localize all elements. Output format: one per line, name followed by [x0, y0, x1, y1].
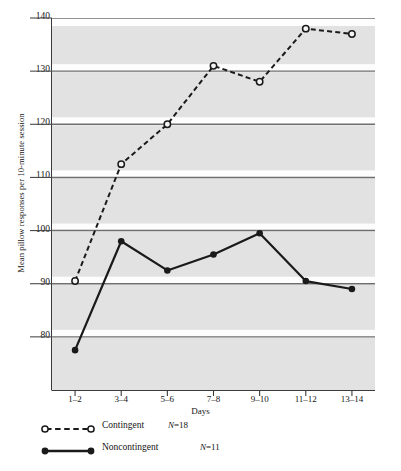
- x-tick-label: 9–10: [251, 394, 269, 404]
- x-tick-label: 7–8: [207, 394, 221, 404]
- x-tick-label: 1–2: [68, 394, 82, 404]
- x-tick-label: 13–14: [341, 394, 364, 404]
- legend-item-noncontingent: Noncontingent N=11: [40, 440, 370, 462]
- legend-label: Noncontingent: [102, 442, 158, 452]
- x-tick-label: 11–12: [295, 394, 317, 404]
- x-axis-title: Days: [0, 406, 401, 416]
- legend-n-count: N=11: [200, 442, 220, 452]
- x-tick-label: 3–4: [114, 394, 128, 404]
- legend-sample-dashed-open-circle: [40, 424, 96, 434]
- legend-sample-solid-filled-circle: [40, 446, 96, 456]
- legend-item-contingent: Contingent N=18: [40, 418, 370, 440]
- legend: Contingent N=18 Noncontingent N=11: [40, 418, 370, 462]
- figure: Mean pillow responses per 10-minute sess…: [0, 0, 401, 471]
- legend-label: Contingent: [102, 420, 144, 430]
- legend-n-count: N=18: [168, 420, 188, 430]
- x-tick-label: 5–6: [161, 394, 175, 404]
